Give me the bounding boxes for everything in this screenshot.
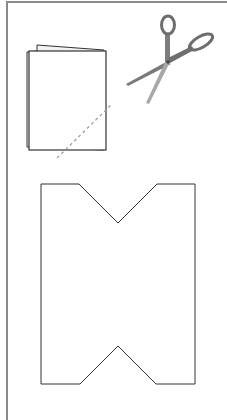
cut-shape-outline — [41, 184, 195, 384]
scissors-icon — [126, 16, 215, 104]
folded-paper-icon — [27, 45, 106, 150]
diagram-svg — [0, 0, 227, 420]
diagram-canvas: Paper folded in half Cut along dashed li… — [0, 0, 227, 420]
